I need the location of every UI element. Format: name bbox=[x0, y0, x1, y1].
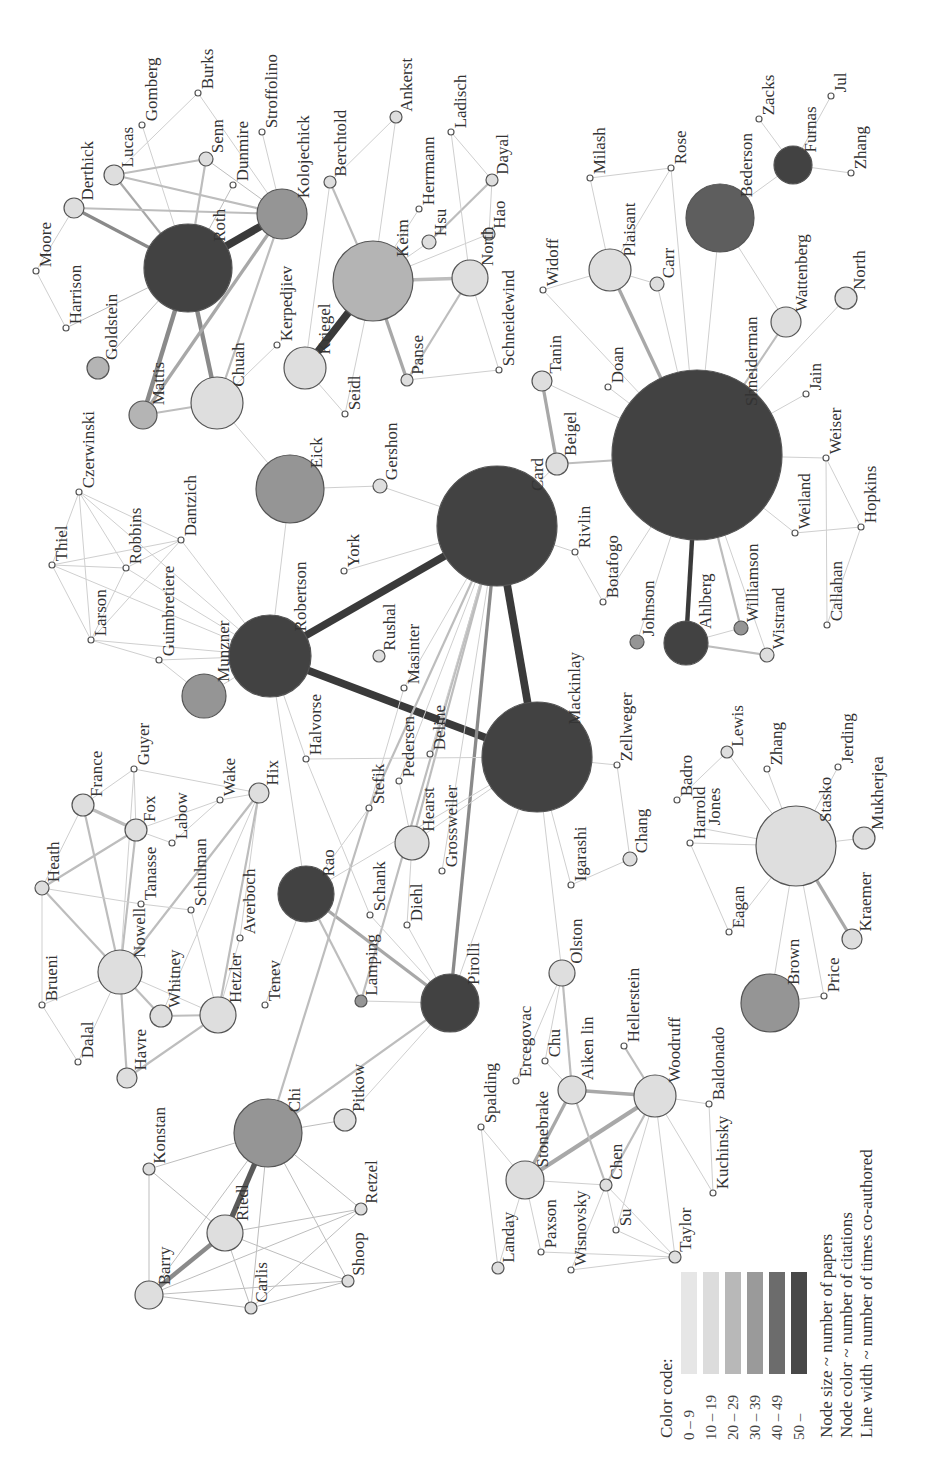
node-rose[interactable] bbox=[668, 165, 674, 171]
node-weiland[interactable] bbox=[792, 530, 798, 536]
node-zellweger[interactable] bbox=[614, 762, 620, 768]
node-seidl[interactable] bbox=[342, 411, 348, 417]
node-tenev[interactable] bbox=[262, 1002, 268, 1008]
node-harrison[interactable] bbox=[63, 325, 69, 331]
node-badro[interactable] bbox=[674, 797, 680, 803]
legend-note-width: Line width ~ number of times co-authored bbox=[857, 1149, 876, 1438]
node-hopkins[interactable] bbox=[858, 524, 864, 530]
node-labow[interactable] bbox=[169, 840, 175, 846]
node-eagan[interactable] bbox=[726, 929, 732, 935]
edge-ladisch-dayal bbox=[451, 132, 492, 180]
node-jerding[interactable] bbox=[835, 764, 841, 770]
node-dunmire[interactable] bbox=[230, 182, 236, 188]
node-chu[interactable] bbox=[542, 1058, 548, 1064]
node-label-chen: Chen bbox=[607, 1143, 626, 1179]
node-kuchinsky[interactable] bbox=[710, 1190, 716, 1196]
node-label-mukherjea: Mukherjea bbox=[868, 756, 887, 830]
node-price[interactable] bbox=[821, 993, 827, 999]
node-dantzich[interactable] bbox=[178, 537, 184, 543]
node-chen[interactable] bbox=[600, 1179, 612, 1191]
node-spalding[interactable] bbox=[478, 1124, 484, 1130]
node-stroffolino[interactable] bbox=[259, 129, 265, 135]
node-ladisch[interactable] bbox=[448, 129, 454, 135]
node-label-kerpedjiev: Kerpedjiev bbox=[277, 265, 296, 341]
node-schneidewind[interactable] bbox=[496, 367, 502, 373]
node-lewis[interactable] bbox=[721, 746, 733, 758]
node-doan[interactable] bbox=[605, 384, 611, 390]
node-dayal[interactable] bbox=[486, 174, 498, 186]
legend-bin-label-5: 50 – bbox=[791, 1413, 807, 1440]
node-panse[interactable] bbox=[401, 374, 413, 386]
node-burks[interactable] bbox=[195, 90, 201, 96]
node-label-masinter: Masinter bbox=[404, 624, 423, 685]
node-konstan[interactable] bbox=[143, 1163, 155, 1175]
node-milash[interactable] bbox=[587, 175, 593, 181]
node-retzel[interactable] bbox=[355, 1203, 367, 1215]
node-larson[interactable] bbox=[88, 637, 94, 643]
node-deline[interactable] bbox=[427, 751, 433, 757]
node-halvorsen[interactable] bbox=[303, 756, 309, 762]
node-guyer[interactable] bbox=[131, 766, 137, 772]
node-widoff[interactable] bbox=[540, 287, 546, 293]
node-ankerst[interactable] bbox=[390, 111, 402, 123]
node-moore[interactable] bbox=[33, 268, 39, 274]
node-pedersen[interactable] bbox=[396, 778, 402, 784]
node-weiser[interactable] bbox=[823, 455, 829, 461]
node-schank[interactable] bbox=[367, 912, 373, 918]
node-label-weiser: Weiser bbox=[826, 407, 845, 454]
node-label-diehl: Diehl bbox=[407, 883, 426, 921]
node-schulman[interactable] bbox=[188, 907, 194, 913]
node-callahan[interactable] bbox=[824, 622, 830, 628]
node-grossweiler[interactable] bbox=[439, 868, 445, 874]
node-hellerstein[interactable] bbox=[621, 1043, 627, 1049]
node-dalal[interactable] bbox=[75, 1059, 81, 1065]
node-label-thiel: Thiel bbox=[52, 525, 71, 561]
node-ercegovac[interactable] bbox=[513, 1078, 519, 1084]
node-label-north: North bbox=[478, 226, 497, 266]
node-averboch[interactable] bbox=[237, 935, 243, 941]
node-guimbretiere[interactable] bbox=[156, 657, 162, 663]
node-diehl[interactable] bbox=[404, 922, 410, 928]
node-label-retzel: Retzel bbox=[362, 1160, 381, 1204]
node-rushal[interactable] bbox=[373, 650, 385, 662]
node-wake[interactable] bbox=[217, 797, 223, 803]
edge-paxson-taylor bbox=[541, 1252, 675, 1257]
node-stefik[interactable] bbox=[366, 805, 372, 811]
node-kerpedjiev[interactable] bbox=[274, 342, 280, 348]
node-label-dayal: Dayal bbox=[493, 134, 512, 175]
node-herrmann[interactable] bbox=[416, 206, 422, 212]
node-label-brown: Brown bbox=[784, 938, 803, 985]
node-lamping[interactable] bbox=[355, 995, 367, 1007]
node-harrold[interactable] bbox=[687, 840, 693, 846]
node-masinter[interactable] bbox=[401, 685, 407, 691]
node-robbins[interactable] bbox=[123, 565, 129, 571]
node-wisnovsky[interactable] bbox=[568, 1267, 574, 1273]
node-rivlin[interactable] bbox=[572, 549, 578, 555]
node-landay[interactable] bbox=[492, 1262, 504, 1274]
node-label-pirolli: Pirolli bbox=[464, 942, 483, 985]
node-czerwinski[interactable] bbox=[76, 489, 82, 495]
node-carlis[interactable] bbox=[245, 1302, 257, 1314]
node-jain[interactable] bbox=[803, 391, 809, 397]
node-brueni[interactable] bbox=[39, 1002, 45, 1008]
node-york[interactable] bbox=[341, 568, 347, 574]
node-zacks[interactable] bbox=[756, 116, 762, 122]
node-zhang-stasko[interactable] bbox=[764, 766, 770, 772]
node-thiel[interactable] bbox=[49, 562, 55, 568]
node-label-pedersen: Pedersen bbox=[399, 715, 418, 777]
edge-chen-su bbox=[606, 1185, 616, 1230]
node-paxson[interactable] bbox=[538, 1249, 544, 1255]
node-shoop[interactable] bbox=[342, 1275, 354, 1287]
node-zhang-furnas[interactable] bbox=[848, 170, 854, 176]
node-tanasse[interactable] bbox=[138, 901, 144, 907]
node-taylor[interactable] bbox=[669, 1251, 681, 1263]
node-jul[interactable] bbox=[828, 93, 834, 99]
node-gomberg[interactable] bbox=[139, 122, 145, 128]
node-berchtold[interactable] bbox=[324, 176, 336, 188]
node-baldonado[interactable] bbox=[706, 1101, 712, 1107]
node-label-schulman: Schulman bbox=[191, 838, 210, 906]
node-label-eagan: Eagan bbox=[729, 885, 748, 928]
node-botafogo[interactable] bbox=[600, 599, 606, 605]
node-su[interactable] bbox=[613, 1227, 619, 1233]
node-igarashi[interactable] bbox=[568, 882, 574, 888]
